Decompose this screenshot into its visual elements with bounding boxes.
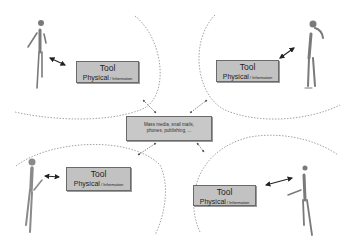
- person-tool-arrow-bl: [45, 176, 59, 177]
- tool-title: Tool: [67, 169, 130, 179]
- link-arrow-bottom-right: [197, 143, 204, 152]
- person-tool-arrow-br: [266, 178, 292, 185]
- tool-subtitle: Physical / Information: [77, 73, 138, 83]
- tool-box-bottom-left: Tool Physical / Information: [66, 167, 131, 191]
- person-bottom-right-icon: [288, 166, 312, 236]
- tool-box-top-left: Tool Physical / Information: [76, 61, 139, 83]
- center-label-line2: phones, publishing, ...: [147, 128, 192, 133]
- tool-box-top-right: Tool Physical / Information: [216, 60, 279, 82]
- tool-sub-small: / Information: [249, 75, 272, 80]
- person-top-left-icon: [28, 20, 46, 88]
- tool-subtitle: Physical / Information: [194, 197, 255, 207]
- tool-subtitle: Physical / Information: [67, 179, 130, 189]
- person-tool-arrow-tr: [280, 48, 294, 58]
- tool-title: Tool: [217, 62, 278, 72]
- person-top-right-icon: [305, 21, 323, 89]
- tool-title: Tool: [77, 63, 138, 73]
- tool-sub-main: Physical: [200, 198, 226, 205]
- person-tool-arrow-tl: [50, 58, 65, 65]
- tool-sub-small: / Information: [109, 76, 132, 81]
- tool-sub-main: Physical: [83, 74, 109, 81]
- tool-sub-small: / Information: [100, 182, 123, 187]
- tool-title: Tool: [194, 187, 255, 197]
- tool-sub-main: Physical: [74, 180, 100, 187]
- tool-sub-small: / Information: [226, 200, 249, 205]
- ellipse-bottom-right: [194, 135, 338, 232]
- person-bottom-left-icon: [26, 159, 42, 233]
- link-arrow-top-right: [190, 100, 207, 113]
- link-arrow-top-left: [143, 100, 156, 113]
- tool-box-bottom-right: Tool Physical / Information: [193, 185, 256, 206]
- link-arrow-bottom-left: [138, 143, 156, 155]
- tool-sub-main: Physical: [223, 73, 249, 80]
- mass-media-box: Mass media, snail mails, phones, publish…: [126, 116, 212, 141]
- center-label-line1: Mass media, snail mails,: [144, 122, 194, 127]
- tool-subtitle: Physical / Information: [217, 72, 278, 82]
